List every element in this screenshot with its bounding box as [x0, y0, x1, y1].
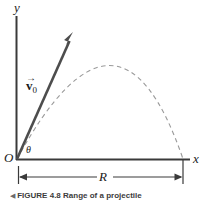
range-arrowhead-right	[175, 174, 183, 181]
projectile-range-figure: y x O θ R →v0 ◀ FIGURE 4.8 Range of a pr…	[0, 0, 213, 200]
range-label: R	[99, 170, 107, 183]
velocity-vector-head	[64, 32, 73, 45]
initial-velocity-label: →v0	[26, 79, 37, 95]
velocity-symbol-stack: →v	[26, 79, 33, 92]
velocity-vector-shaft	[17, 41, 70, 159]
launch-angle-label: θ	[26, 145, 31, 155]
caption-number: FIGURE 4.8	[17, 191, 61, 200]
figure-caption: ◀ FIGURE 4.8 Range of a projectile	[10, 191, 210, 200]
vector-arrow-accent: →	[26, 73, 32, 83]
y-axis-label: y	[14, 1, 20, 14]
range-arrowhead-left	[19, 174, 27, 181]
velocity-subscript: 0	[33, 85, 38, 95]
trajectory-path	[17, 66, 183, 160]
caption-title: Range of a projectile	[63, 191, 142, 200]
origin-label: O	[4, 151, 13, 164]
x-axis-label: x	[193, 152, 199, 165]
caption-marker-icon: ◀	[10, 192, 15, 199]
